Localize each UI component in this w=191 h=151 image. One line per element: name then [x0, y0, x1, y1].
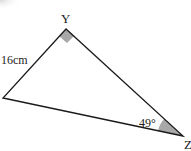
- vertex-label-y: Y: [61, 11, 71, 26]
- triangle-outline: [3, 29, 183, 136]
- corner-shadow: [0, 0, 22, 10]
- triangle-diagram: Y 16cm 49° Z: [0, 0, 191, 151]
- side-length-label: 16cm: [1, 53, 28, 67]
- angle-label: 49°: [139, 116, 156, 130]
- vertex-label-z: Z: [184, 137, 191, 151]
- right-angle-marker: [59, 29, 74, 43]
